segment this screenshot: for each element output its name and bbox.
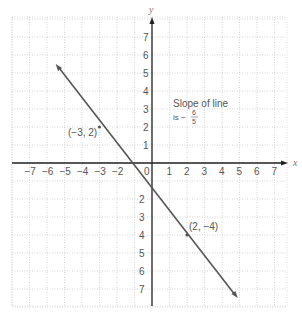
x-tick-label: −4 (77, 166, 89, 177)
x-tick-label: 6 (254, 166, 260, 177)
y-tick-label: 5 (143, 68, 149, 79)
y-tick-label: 2 (143, 122, 149, 133)
y-tick-label: 6 (139, 266, 145, 277)
y-tick-label: 4 (139, 230, 145, 241)
x-tick-label: 2 (184, 166, 190, 177)
slope-denominator: 5 (192, 118, 196, 125)
x-tick-label: −5 (60, 166, 72, 177)
x-tick-label: −3 (95, 166, 107, 177)
point-label-2: (2, −4) (189, 221, 218, 232)
slope-annotation-line1: Slope of line (173, 98, 228, 109)
x-tick-label: 5 (237, 166, 243, 177)
point-label-1: (−3, 2) (68, 127, 97, 138)
y-tick-label: 2 (139, 194, 145, 205)
y-tick-label: 3 (143, 104, 149, 115)
y-tick-label: 4 (143, 86, 149, 97)
slope-numerator: 6 (192, 109, 196, 116)
x-tick-label: 0 (144, 166, 150, 177)
x-tick-label: −6 (42, 166, 54, 177)
y-tick-label: 7 (143, 32, 149, 43)
coordinate-plane: −7−6−5−4−3−2012345677654321234567 (−3, 2… (0, 0, 302, 316)
y-axis-label: y (148, 4, 154, 15)
x-tick-label: 3 (202, 166, 208, 177)
x-axis-label: x (292, 157, 298, 168)
x-tick-label: −2 (112, 166, 124, 177)
x-tick-label: 1 (167, 166, 173, 177)
y-tick-label: 1 (143, 140, 149, 151)
slope-annotation-prefix: is − (173, 113, 186, 122)
axes (12, 17, 288, 306)
grid (12, 17, 287, 307)
x-tick-label: 7 (272, 166, 278, 177)
x-tick-label: 4 (219, 166, 225, 177)
x-tick-label: −7 (25, 166, 37, 177)
y-tick-label: 6 (143, 50, 149, 61)
y-tick-label: 7 (139, 284, 145, 295)
y-tick-label: 5 (139, 248, 145, 259)
y-tick-label: 3 (139, 212, 145, 223)
